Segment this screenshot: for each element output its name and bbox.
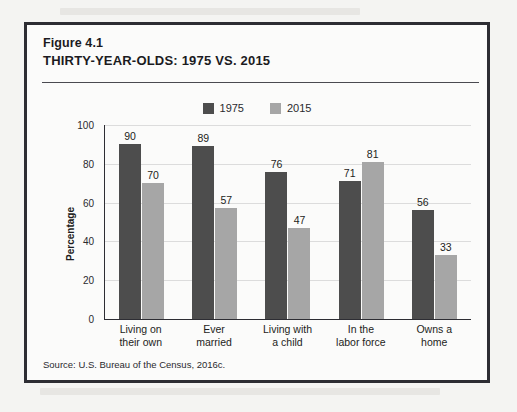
bar-value-label: 56 [417, 196, 429, 208]
source-prefix: Source: [43, 359, 76, 370]
y-tick-label: 60 [83, 197, 94, 208]
bar-group: 5633 [412, 125, 457, 319]
y-tick-label: 40 [83, 236, 94, 247]
source-note: Source: U.S. Bureau of the Census, 2016c… [43, 359, 225, 370]
bar-rect [435, 255, 457, 319]
bar-2015-living-with-a-child: 47 [288, 125, 310, 319]
legend-swatch-1975 [203, 103, 214, 114]
y-axis-ticks: 100806040200 [62, 125, 98, 319]
figure-title: THIRTY-YEAR-OLDS: 1975 VS. 2015 [43, 53, 270, 68]
bar-2015-ever-married: 57 [215, 125, 237, 319]
x-axis-label: Evermarried [179, 323, 249, 348]
y-tick-label: 0 [88, 314, 94, 325]
bar-rect [339, 181, 361, 319]
bar-value-label: 71 [344, 167, 356, 179]
y-tick-label: 20 [83, 275, 94, 286]
x-axis-label-line: labor force [326, 336, 396, 349]
figure-number: Figure 4.1 [43, 36, 103, 50]
legend-label-2015: 2015 [287, 102, 311, 114]
figure-container: Figure 4.1 THIRTY-YEAR-OLDS: 1975 VS. 20… [24, 22, 490, 383]
bar-2015-in-the-labor-force: 81 [362, 125, 384, 319]
chart-area: Percentage 100806040200 9070895776477181… [42, 125, 477, 342]
source-text: U.S. Bureau of the Census, 2016c. [78, 359, 225, 370]
x-axis-label-line: their own [106, 336, 176, 349]
y-tick-label: 80 [83, 158, 94, 169]
x-axis-label-line: Owns a [399, 323, 469, 336]
plot-area: 90708957764771815633 [104, 125, 471, 320]
y-tick-label: 100 [77, 120, 94, 131]
bar-rect [362, 162, 384, 319]
x-axis-label-line: Ever [179, 323, 249, 336]
bar-rect [192, 146, 214, 319]
x-axis-label-line: home [399, 336, 469, 349]
bar-group: 9070 [119, 125, 164, 319]
x-axis-label-line: married [179, 336, 249, 349]
bar-value-label: 90 [124, 130, 136, 142]
legend-item-1975: 1975 [203, 102, 244, 114]
bar-value-label: 70 [147, 169, 159, 181]
bar-2015-living-on-their-own: 70 [142, 125, 164, 319]
x-axis-label: In thelabor force [326, 323, 396, 348]
x-axis-label-line: Living with [252, 323, 322, 336]
bar-group: 8957 [192, 125, 237, 319]
bar-groups: 90708957764771815633 [105, 125, 471, 319]
bar-rect [265, 172, 287, 319]
bar-1975-in-the-labor-force: 71 [339, 125, 361, 319]
legend-label-1975: 1975 [220, 102, 244, 114]
x-axis-labels: Living ontheir ownEvermarriedLiving with… [104, 323, 471, 348]
legend-swatch-2015 [270, 103, 281, 114]
bar-group: 7181 [339, 125, 384, 319]
x-axis-label-line: In the [326, 323, 396, 336]
x-axis-label: Living witha child [252, 323, 322, 348]
bar-value-label: 33 [440, 241, 452, 253]
bar-value-label: 57 [220, 194, 232, 206]
bar-value-label: 47 [294, 214, 306, 226]
bar-value-label: 81 [367, 148, 379, 160]
x-axis-label: Owns ahome [399, 323, 469, 348]
bar-1975-living-on-their-own: 90 [119, 125, 141, 319]
x-axis-label-line: a child [252, 336, 322, 349]
bar-rect [119, 144, 141, 319]
x-axis-label: Living ontheir own [106, 323, 176, 348]
chart-legend: 1975 2015 [27, 102, 487, 114]
title-divider [42, 82, 479, 83]
bar-rect [142, 183, 164, 319]
bar-value-label: 89 [197, 132, 209, 144]
x-axis-label-line: Living on [106, 323, 176, 336]
bar-rect [215, 208, 237, 319]
legend-item-2015: 2015 [270, 102, 311, 114]
bar-rect [412, 210, 434, 319]
bar-1975-living-with-a-child: 76 [265, 125, 287, 319]
bar-1975-owns-a-home: 56 [412, 125, 434, 319]
bar-1975-ever-married: 89 [192, 125, 214, 319]
bar-rect [288, 228, 310, 319]
bar-value-label: 76 [271, 158, 283, 170]
bar-2015-owns-a-home: 33 [435, 125, 457, 319]
bar-group: 7647 [265, 125, 310, 319]
